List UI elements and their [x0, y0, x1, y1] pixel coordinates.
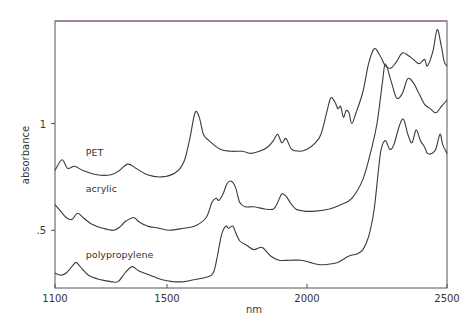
spectrum-chart: 1100150020002500 1.5 PETacrylicpolypropy…	[0, 0, 471, 328]
series-label-polypropylene: polypropylene	[86, 249, 154, 260]
x-axis: 1100150020002500	[42, 284, 459, 304]
x-tick-label: 1500	[154, 293, 179, 304]
y-tick-label: .5	[36, 225, 46, 236]
series-labels: PETacrylicpolypropylene	[86, 147, 154, 261]
series-lines	[55, 29, 447, 282]
x-axis-title: nm	[246, 304, 262, 315]
y-axis: 1.5	[36, 119, 55, 237]
series-label-acrylic: acrylic	[86, 183, 117, 194]
series-label-PET: PET	[86, 147, 104, 158]
x-tick-label: 2500	[434, 293, 459, 304]
y-tick-label: 1	[40, 119, 46, 130]
y-axis-title: absorbance	[20, 126, 31, 184]
x-tick-label: 1100	[42, 293, 67, 304]
x-tick-label: 2000	[294, 293, 319, 304]
series-line-PET	[55, 29, 447, 177]
